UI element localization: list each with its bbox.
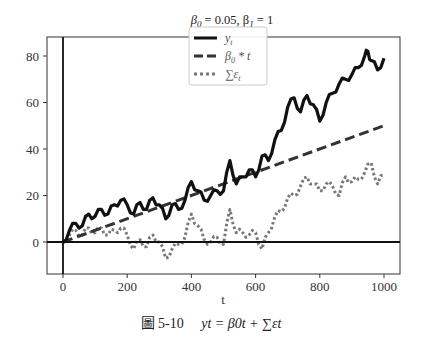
x-tick-label: 200: [117, 279, 137, 294]
figure-caption: 圖 5-10 yt = β0t + ∑εt: [0, 312, 422, 332]
x-axis-label: t: [221, 292, 225, 307]
x-axis: 02004006008001000: [60, 274, 397, 294]
x-tick-label: 400: [182, 279, 202, 294]
chart: β0 = 0.05, β1 = 1 020406080 020040060080…: [0, 0, 422, 349]
y-tick-label: 60: [26, 95, 39, 110]
y-tick-label: 40: [26, 142, 39, 157]
figure-number: 圖 5-10: [141, 316, 184, 331]
series-sum-eps-line: [63, 163, 384, 258]
x-tick-label: 1000: [371, 279, 397, 294]
y-tick-label: 20: [26, 188, 39, 203]
y-tick-label: 80: [26, 49, 39, 64]
figure-formula: yt = β0t + ∑εt: [201, 316, 281, 331]
legend-label-beta0t: β0 * t: [224, 49, 251, 65]
x-tick-label: 800: [310, 279, 330, 294]
legend: yt β0 * t ∑εt: [189, 27, 267, 85]
y-axis: 020406080: [26, 49, 47, 250]
x-tick-label: 600: [246, 279, 266, 294]
y-tick-label: 0: [33, 235, 40, 250]
x-tick-label: 0: [60, 279, 67, 294]
